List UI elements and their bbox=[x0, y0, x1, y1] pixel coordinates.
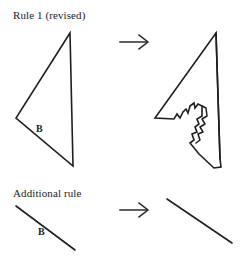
rule-2-rhs-line bbox=[150, 190, 240, 267]
arrow-right-icon bbox=[118, 198, 154, 222]
triangle-outline bbox=[16, 33, 73, 166]
jagged-shape-outline bbox=[155, 33, 221, 168]
triangle-edge-label-b: B bbox=[36, 123, 43, 134]
rule-diagram-canvas: Rule 1 (revised) B Additional rule B bbox=[0, 0, 241, 267]
rule-2-lhs-line bbox=[0, 190, 110, 267]
line-edge-label-b: B bbox=[38, 226, 45, 237]
arrow-right-icon bbox=[118, 30, 154, 54]
rule-1-lhs-triangle bbox=[0, 20, 110, 180]
jagged-shape-right-spine bbox=[216, 33, 220, 159]
line-segment bbox=[16, 206, 75, 250]
rule-1-rhs-jagged-shape bbox=[150, 20, 240, 185]
line-segment bbox=[167, 199, 232, 243]
